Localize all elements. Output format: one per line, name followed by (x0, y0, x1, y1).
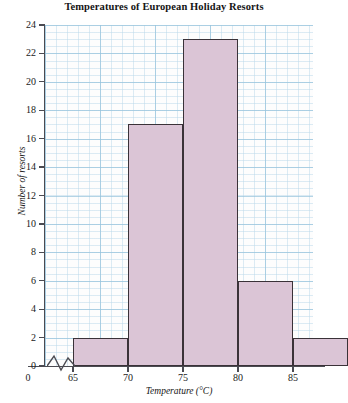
x-axis-title: Temperature (°C) (45, 386, 313, 396)
y-axis-tick (39, 337, 45, 338)
y-axis-tick (39, 252, 45, 253)
x-axis-tick-label: 75 (168, 373, 198, 383)
y-axis-tick-label: 24 (0, 20, 36, 30)
y-axis-tick-label: 4 (0, 304, 36, 314)
y-axis-tick (39, 280, 45, 281)
x-axis-tick-label: 85 (278, 373, 308, 383)
y-axis-tick (39, 81, 45, 82)
chart-title: Temperatures of European Holiday Resorts (0, 1, 328, 12)
y-axis-tick (39, 223, 45, 224)
plot-area (45, 25, 313, 366)
y-axis-tick (39, 166, 45, 167)
histogram-bar (183, 39, 238, 366)
y-axis-tick-label: 22 (0, 48, 36, 58)
y-axis-tick-label: 20 (0, 77, 36, 87)
y-axis-tick-label: 0 (0, 361, 36, 371)
y-axis-tick (39, 53, 45, 54)
x-axis-tick-label: 70 (113, 373, 143, 383)
histogram-bar (293, 338, 348, 366)
y-axis-tick (39, 195, 45, 196)
y-axis-tick (39, 24, 45, 25)
y-axis-tick (39, 309, 45, 310)
y-axis-tick-label: 6 (0, 276, 36, 286)
histogram-bar (73, 338, 128, 366)
y-axis-tick (39, 110, 45, 111)
axis-break-icon (47, 352, 75, 378)
x-axis-tick-label: 80 (223, 373, 253, 383)
x-axis-origin-label: 0 (18, 373, 38, 383)
histogram-bar (238, 281, 293, 366)
y-axis-title: Number of resorts (17, 111, 27, 251)
y-axis-tick (39, 138, 45, 139)
histogram-bar (128, 124, 183, 366)
y-axis-tick-label: 2 (0, 333, 36, 343)
y-axis-tick (39, 365, 45, 366)
